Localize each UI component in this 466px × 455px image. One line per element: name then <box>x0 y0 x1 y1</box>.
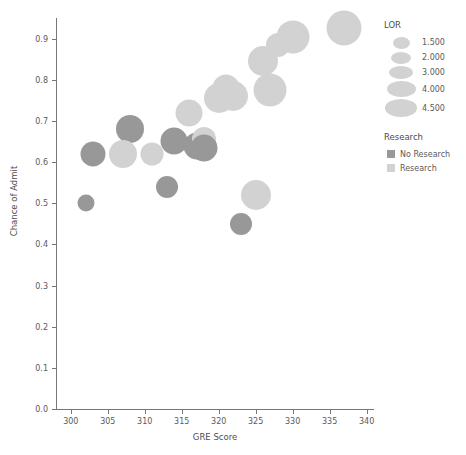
x-tick <box>108 410 109 414</box>
y-tick-label: 0.2 <box>20 322 48 331</box>
x-tick <box>182 410 183 414</box>
data-point <box>109 140 137 168</box>
color-legend-title: Research <box>384 132 466 142</box>
x-tick <box>71 410 72 414</box>
y-tick <box>52 368 56 369</box>
size-legend-swatch-wrap <box>384 81 418 97</box>
y-tick <box>52 286 56 287</box>
size-legend-item: 4.500 <box>384 98 466 118</box>
data-point <box>276 20 309 53</box>
size-legend-item: 3.000 <box>384 65 466 80</box>
y-axis-line <box>56 18 57 409</box>
x-axis-title: GRE Score <box>56 432 374 442</box>
size-legend-swatch-wrap <box>384 66 418 79</box>
data-point <box>218 81 248 111</box>
x-tick-label: 300 <box>51 417 91 426</box>
x-tick <box>330 410 331 414</box>
size-legend-label: 4.500 <box>422 104 445 113</box>
size-legend-swatch-wrap <box>384 52 418 64</box>
color-legend-item: Research <box>384 161 466 175</box>
size-legend-bubble <box>391 52 411 64</box>
y-tick-label: 0.5 <box>20 199 48 208</box>
y-tick-label: 0.8 <box>20 75 48 84</box>
x-tick-label: 340 <box>347 417 387 426</box>
y-tick <box>52 80 56 81</box>
data-point <box>77 195 94 212</box>
x-axis-line <box>56 409 374 410</box>
color-legend-entries: No ResearchResearch <box>384 147 466 175</box>
data-point <box>327 11 362 46</box>
y-tick <box>52 244 56 245</box>
y-tick-label: 0.7 <box>20 116 48 125</box>
y-tick-label: 0.0 <box>20 405 48 414</box>
x-tick-label: 335 <box>310 417 350 426</box>
size-legend-label: 3.000 <box>422 68 445 77</box>
data-point <box>80 141 105 166</box>
x-tick-label: 305 <box>88 417 128 426</box>
y-tick <box>52 409 56 410</box>
y-tick <box>52 121 56 122</box>
y-tick-label: 0.4 <box>20 240 48 249</box>
x-tick <box>219 410 220 414</box>
data-point <box>241 180 271 210</box>
color-legend-swatch <box>387 164 395 172</box>
color-legend-label: No Research <box>400 150 450 159</box>
color-legend-label: Research <box>400 164 437 173</box>
size-legend-swatch-wrap <box>384 37 418 49</box>
color-legend-item: No Research <box>384 147 466 161</box>
size-legend-label: 1.500 <box>422 38 445 47</box>
x-tick-label: 320 <box>199 417 239 426</box>
data-point <box>230 213 252 235</box>
size-legend-bubble <box>389 66 413 79</box>
x-tick <box>145 410 146 414</box>
color-legend: Research No ResearchResearch <box>384 132 466 175</box>
y-axis-title: Chance of Admit <box>9 111 19 291</box>
data-point <box>190 134 217 161</box>
y-tick-label: 0.1 <box>20 363 48 372</box>
x-tick-label: 315 <box>162 417 202 426</box>
legend: LOR 1.5002.0003.0004.0004.500 Research N… <box>384 20 466 175</box>
scatter-plot-figure: 0.00.10.20.30.40.50.60.70.80.9 300305310… <box>0 0 466 455</box>
x-tick-label: 325 <box>236 417 276 426</box>
size-legend-bubble <box>385 99 417 117</box>
y-tick <box>52 203 56 204</box>
data-point <box>141 142 164 165</box>
size-legend-entries: 1.5002.0003.0004.0004.500 <box>384 35 466 118</box>
x-tick <box>256 410 257 414</box>
y-tick <box>52 39 56 40</box>
y-tick <box>52 162 56 163</box>
size-legend-item: 2.000 <box>384 50 466 65</box>
plot-area <box>56 18 374 409</box>
data-point <box>156 176 178 198</box>
data-point <box>254 74 287 107</box>
size-legend-item: 1.500 <box>384 35 466 50</box>
y-tick-label: 0.3 <box>20 281 48 290</box>
size-legend-bubble <box>393 37 410 49</box>
x-tick-label: 310 <box>125 417 165 426</box>
data-point <box>176 99 203 126</box>
size-legend-swatch-wrap <box>384 99 418 117</box>
y-tick <box>52 327 56 328</box>
x-tick <box>367 410 368 414</box>
x-tick-label: 330 <box>273 417 313 426</box>
size-legend-label: 2.000 <box>422 53 445 62</box>
y-tick-label: 0.6 <box>20 158 48 167</box>
size-legend-label: 4.000 <box>422 85 445 94</box>
size-legend-title: LOR <box>384 20 466 30</box>
color-legend-swatch <box>387 150 395 158</box>
x-tick <box>293 410 294 414</box>
size-legend-bubble <box>387 81 416 97</box>
size-legend-item: 4.000 <box>384 80 466 98</box>
y-tick-label: 0.9 <box>20 34 48 43</box>
